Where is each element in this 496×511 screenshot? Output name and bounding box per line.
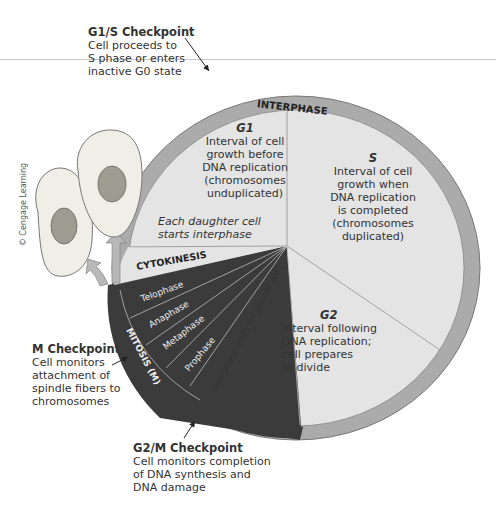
g2-desc-line: to divide [282,361,392,374]
g1-phase-block: G1 Interval of cell growth before DNA re… [200,122,290,200]
daughter-cell-note: Each daughter cell starts interphase [158,215,288,241]
g2m-checkpoint-title: G2/M Checkpoint [133,442,303,455]
g1s-line: inactive G0 state [88,65,228,78]
g1-desc-line: unduplicated) [200,187,290,200]
s-desc-line: (chromosomes [318,217,428,230]
g2m-checkpoint-arrow [184,421,195,438]
m-line: Cell monitors [32,356,152,369]
g2m-line: Cell monitors completion [133,455,303,468]
s-desc-line: duplicated) [318,230,428,243]
g1-desc-line: (chromosomes [200,174,290,187]
g1s-line: Cell proceeds to [88,39,228,52]
g2m-line: DNA damage [133,481,303,494]
g1-desc-line: Interval of cell [200,135,290,148]
g1-desc-line: DNA replication [200,161,290,174]
m-line: spindle fibers to [32,382,152,395]
g1s-checkpoint: G1/S Checkpoint Cell proceeds to S phase… [88,26,228,78]
g1s-checkpoint-title: G1/S Checkpoint [88,26,228,39]
g1s-line: S phase or enters [88,52,228,65]
g2-title: G2 [282,309,392,322]
g1-title: G1 [200,122,290,135]
m-line: attachment of [32,369,152,382]
daughter-line: starts interphase [158,228,288,241]
g2-phase-block: G2 Interval following DNA replication; c… [282,309,392,374]
g2-desc-line: cell prepares [282,348,392,361]
s-desc-line: is completed [318,204,428,217]
s-desc-line: Interval of cell [318,165,428,178]
copyright-credit: © Cengage Learning [19,163,28,246]
m-checkpoint-title: M Checkpoint [32,343,152,356]
g1-desc-line: growth before [200,148,290,161]
g2-desc-line: Interval following [282,322,392,335]
cell-cycle-diagram: INTERPHASE CYTOKINESIS Telophase Anaphas… [0,0,496,511]
arrow-to-daughter-2 [86,259,108,286]
s-phase-block: S Interval of cell growth when DNA repli… [318,152,428,243]
g2-desc-line: DNA replication; [282,335,392,348]
s-desc-line: DNA replication [318,191,428,204]
m-checkpoint: M Checkpoint Cell monitors attachment of… [32,343,152,408]
g2m-checkpoint: G2/M Checkpoint Cell monitors completion… [133,442,303,494]
m-line: chromosomes [32,395,152,408]
s-desc-line: growth when [318,178,428,191]
g2m-line: of DNA synthesis and [133,468,303,481]
daughter-line: Each daughter cell [158,215,288,228]
s-title: S [318,152,428,165]
